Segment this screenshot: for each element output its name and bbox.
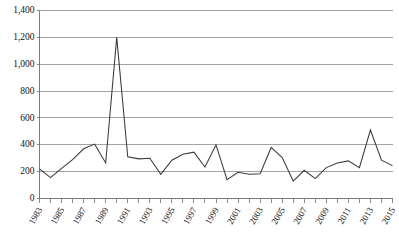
chart-canvas: 1,4001,2001,0008006004002000 19831985198… [0,0,399,240]
x-tick-label-1995: 1995 [159,205,177,226]
y-tick-label-600: 600 [20,113,35,123]
x-tick-label-2009: 2009 [313,205,331,226]
x-axis-tick-labels: 1983198519871989199119931995199719992001… [27,205,398,226]
x-tick-label-2007: 2007 [291,205,309,226]
x-tick-label-1991: 1991 [115,206,133,227]
y-tick-label-0: 0 [30,193,35,203]
x-tick-label-1997: 1997 [181,205,199,226]
y-axis-tick-labels: 1,4001,2001,0008006004002000 [13,5,35,203]
x-tick-label-1993: 1993 [137,205,155,226]
y-tick-label-200: 200 [20,166,35,176]
x-tick-label-2005: 2005 [269,205,287,226]
y-tick-label-1000: 1,000 [13,59,35,69]
series-1-line [40,37,393,181]
y-tick-label-800: 800 [20,86,35,96]
x-tick-label-1983: 1983 [27,205,45,226]
chart-plot-area: 1,4001,2001,0008006004002000 19831985198… [0,0,399,240]
y-tick-label-1400: 1,400 [13,5,35,15]
x-tick-label-2001: 2001 [225,206,243,227]
x-axis-tickmarks [40,199,393,203]
data-series-line [40,37,393,181]
y-tick-label-400: 400 [20,139,35,149]
x-tick-label-2011: 2011 [336,206,353,226]
x-axis-line-group [40,11,393,199]
x-tick-label-2015: 2015 [380,205,398,226]
y-tick-label-1200: 1,200 [13,32,35,42]
x-tick-label-1985: 1985 [49,205,67,226]
line-chart: 1,4001,2001,0008006004002000 19831985198… [0,0,399,240]
gridlines-group [37,11,393,199]
x-tick-label-1999: 1999 [203,205,221,226]
x-tick-label-2003: 2003 [247,205,265,226]
x-tick-label-1987: 1987 [71,205,89,226]
x-tick-label-2013: 2013 [358,205,376,226]
x-tick-label-1989: 1989 [93,205,111,226]
